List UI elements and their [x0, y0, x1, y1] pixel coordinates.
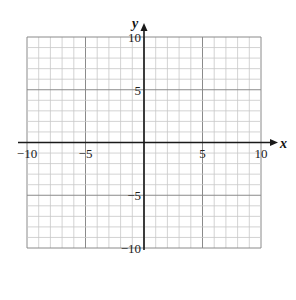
y-tick-label: 10	[128, 30, 141, 45]
y-tick-label: 5	[135, 83, 142, 98]
coordinate-plane: −10−5510105−5−10 x y	[0, 0, 296, 300]
x-tick-label: −10	[17, 146, 37, 161]
x-tick-label: 10	[255, 146, 268, 161]
y-tick-label: −10	[121, 241, 141, 256]
y-axis-arrow-icon	[141, 23, 148, 31]
x-tick-label: −5	[79, 146, 93, 161]
x-axis-arrow-icon	[270, 139, 278, 146]
y-tick-label: −5	[127, 188, 141, 203]
axes	[18, 23, 278, 250]
x-tick-label: 5	[199, 146, 206, 161]
y-axis-label: y	[130, 16, 139, 31]
x-axis-label: x	[279, 136, 287, 151]
